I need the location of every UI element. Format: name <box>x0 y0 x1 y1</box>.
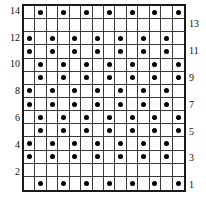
grid-cell[interactable] <box>47 98 58 111</box>
grid-cell[interactable] <box>35 164 46 177</box>
grid-cell[interactable] <box>173 124 184 137</box>
grid-cell[interactable] <box>81 98 92 111</box>
grid-cell[interactable] <box>47 72 58 85</box>
grid-cell[interactable] <box>93 137 104 150</box>
grid-cell[interactable] <box>150 177 161 190</box>
grid-cell[interactable] <box>70 19 81 32</box>
grid-cell[interactable] <box>127 45 138 58</box>
grid-cell[interactable] <box>115 45 126 58</box>
grid-cell[interactable] <box>127 6 138 19</box>
grid-cell[interactable] <box>93 177 104 190</box>
grid-cell[interactable] <box>24 111 35 124</box>
grid-cell[interactable] <box>115 59 126 72</box>
grid-cell[interactable] <box>150 124 161 137</box>
grid-cell[interactable] <box>104 151 115 164</box>
grid-cell[interactable] <box>127 32 138 45</box>
grid-cell[interactable] <box>35 98 46 111</box>
grid-cell[interactable] <box>150 98 161 111</box>
grid-cell[interactable] <box>35 151 46 164</box>
grid-cell[interactable] <box>161 151 172 164</box>
grid-cell[interactable] <box>104 164 115 177</box>
grid-cell[interactable] <box>138 137 149 150</box>
grid-cell[interactable] <box>127 124 138 137</box>
grid-cell[interactable] <box>93 6 104 19</box>
grid-cell[interactable] <box>58 59 69 72</box>
grid-cell[interactable] <box>58 137 69 150</box>
grid-cell[interactable] <box>81 72 92 85</box>
grid-cell[interactable] <box>104 124 115 137</box>
grid-cell[interactable] <box>161 124 172 137</box>
grid-cell[interactable] <box>115 85 126 98</box>
grid-cell[interactable] <box>104 98 115 111</box>
grid-cell[interactable] <box>104 72 115 85</box>
grid-cell[interactable] <box>70 59 81 72</box>
grid-cell[interactable] <box>173 164 184 177</box>
grid-cell[interactable] <box>138 32 149 45</box>
grid-cell[interactable] <box>104 111 115 124</box>
grid-cell[interactable] <box>127 111 138 124</box>
grid-cell[interactable] <box>70 164 81 177</box>
grid-cell[interactable] <box>24 177 35 190</box>
grid-cell[interactable] <box>93 19 104 32</box>
grid-cell[interactable] <box>35 111 46 124</box>
grid-cell[interactable] <box>24 98 35 111</box>
grid-cell[interactable] <box>161 59 172 72</box>
grid-cell[interactable] <box>173 151 184 164</box>
grid-cell[interactable] <box>150 72 161 85</box>
grid-cell[interactable] <box>81 177 92 190</box>
grid-cell[interactable] <box>104 19 115 32</box>
grid-cell[interactable] <box>93 164 104 177</box>
grid-cell[interactable] <box>138 151 149 164</box>
grid-cell[interactable] <box>173 59 184 72</box>
grid-cell[interactable] <box>70 6 81 19</box>
grid-cell[interactable] <box>161 72 172 85</box>
grid-cell[interactable] <box>173 32 184 45</box>
grid-cell[interactable] <box>138 111 149 124</box>
grid-cell[interactable] <box>35 124 46 137</box>
grid-cell[interactable] <box>47 151 58 164</box>
grid-cell[interactable] <box>24 164 35 177</box>
grid-cell[interactable] <box>127 59 138 72</box>
grid-cell[interactable] <box>173 98 184 111</box>
grid-cell[interactable] <box>81 59 92 72</box>
grid-cell[interactable] <box>138 19 149 32</box>
grid-cell[interactable] <box>173 85 184 98</box>
grid-cell[interactable] <box>161 32 172 45</box>
grid-cell[interactable] <box>150 45 161 58</box>
grid-cell[interactable] <box>127 151 138 164</box>
grid-cell[interactable] <box>47 45 58 58</box>
grid-cell[interactable] <box>138 164 149 177</box>
grid-cell[interactable] <box>93 85 104 98</box>
grid-cell[interactable] <box>161 6 172 19</box>
grid-cell[interactable] <box>47 32 58 45</box>
grid-cell[interactable] <box>173 177 184 190</box>
grid-cell[interactable] <box>58 72 69 85</box>
grid-cell[interactable] <box>70 72 81 85</box>
grid-cell[interactable] <box>24 72 35 85</box>
grid-cell[interactable] <box>24 6 35 19</box>
grid-cell[interactable] <box>161 177 172 190</box>
grid-cell[interactable] <box>115 98 126 111</box>
grid-cell[interactable] <box>127 98 138 111</box>
grid-cell[interactable] <box>150 164 161 177</box>
grid-cell[interactable] <box>93 98 104 111</box>
grid-cell[interactable] <box>47 177 58 190</box>
grid-cell[interactable] <box>150 19 161 32</box>
grid-cell[interactable] <box>35 177 46 190</box>
grid-cell[interactable] <box>58 98 69 111</box>
grid-cell[interactable] <box>47 6 58 19</box>
grid-cell[interactable] <box>35 137 46 150</box>
grid-cell[interactable] <box>58 177 69 190</box>
grid-cell[interactable] <box>35 6 46 19</box>
grid-cell[interactable] <box>24 45 35 58</box>
grid-cell[interactable] <box>138 45 149 58</box>
grid-cell[interactable] <box>35 85 46 98</box>
grid-cell[interactable] <box>93 59 104 72</box>
grid-cell[interactable] <box>93 72 104 85</box>
grid-cell[interactable] <box>115 124 126 137</box>
grid-cell[interactable] <box>127 164 138 177</box>
grid-cell[interactable] <box>93 32 104 45</box>
grid-cell[interactable] <box>70 111 81 124</box>
grid-cell[interactable] <box>115 177 126 190</box>
grid-cell[interactable] <box>58 6 69 19</box>
